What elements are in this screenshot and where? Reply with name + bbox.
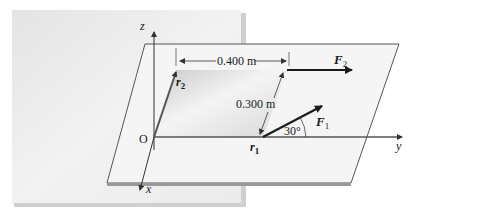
x-axis-label: x xyxy=(145,182,152,196)
width-dimension: 0.400 m xyxy=(217,54,257,68)
force-diagram: z y x O r2 r1 0.400 m 0.300 m F2 F1 30° xyxy=(0,0,499,214)
origin-label: O xyxy=(139,132,148,146)
angle-label: 30° xyxy=(284,124,301,138)
plate-edge xyxy=(107,183,351,186)
z-axis-label: z xyxy=(139,19,145,33)
height-dimension: 0.300 m xyxy=(236,97,276,111)
y-axis-label: y xyxy=(395,139,402,153)
